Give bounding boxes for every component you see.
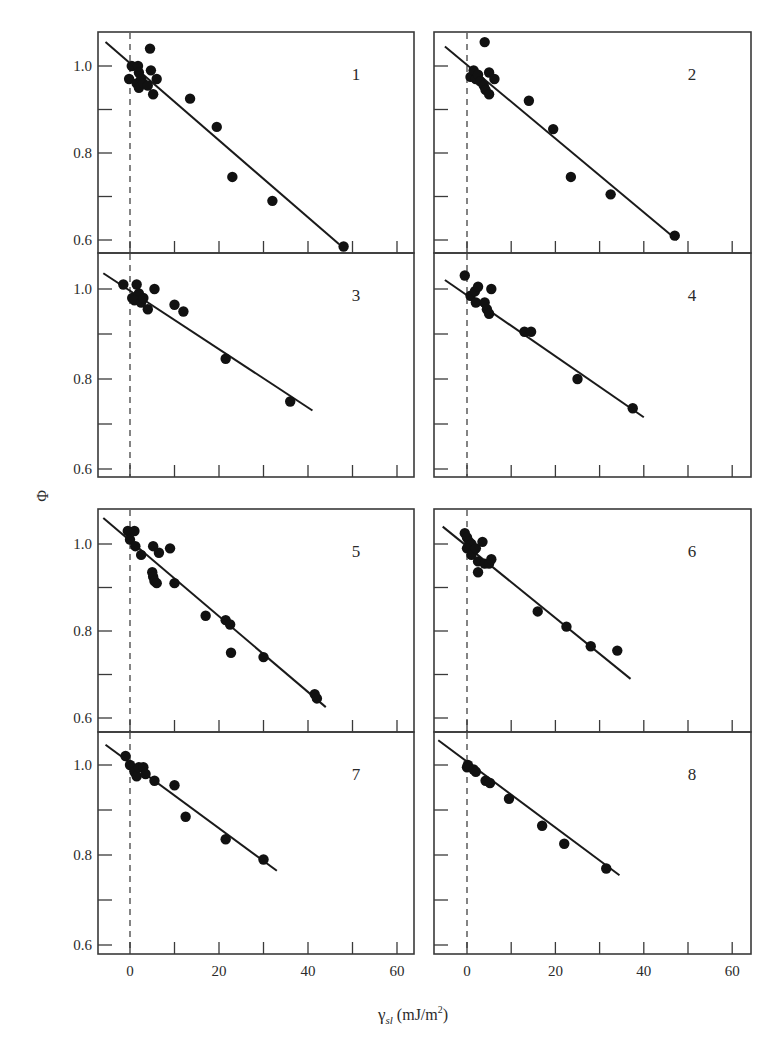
data-point bbox=[169, 578, 179, 588]
panel-5: 51.00.80.6 bbox=[73, 509, 414, 732]
y-tick-label: 0.8 bbox=[73, 847, 92, 863]
x-axis-title-subscript: sl bbox=[386, 1014, 393, 1026]
data-point bbox=[146, 65, 156, 75]
y-tick-label: 1.0 bbox=[73, 757, 92, 773]
data-point bbox=[258, 652, 268, 662]
x-tick-label: 20 bbox=[212, 963, 227, 979]
data-point bbox=[152, 74, 162, 84]
x-axis-title-unit: (mJ/m bbox=[393, 1006, 438, 1024]
data-point bbox=[460, 270, 470, 280]
panel-number-label: 1 bbox=[352, 65, 361, 84]
panel-number-label: 3 bbox=[352, 286, 361, 305]
y-tick-label: 0.6 bbox=[73, 937, 92, 953]
x-axis-title: γsl (mJ/m2) bbox=[377, 1004, 448, 1026]
y-axis-title: Φ bbox=[34, 490, 51, 502]
panel-frame bbox=[98, 253, 414, 477]
panel-6: 6 bbox=[434, 509, 751, 732]
panel-3: 31.00.80.6 bbox=[73, 253, 414, 477]
data-point bbox=[165, 543, 175, 553]
panel-number-label: 7 bbox=[352, 765, 361, 784]
panels-group: 11.00.80.6231.00.80.6451.00.80.6671.00.8… bbox=[73, 32, 751, 979]
data-point bbox=[258, 854, 268, 864]
data-point bbox=[169, 780, 179, 790]
x-tick-label: 0 bbox=[463, 963, 471, 979]
data-point bbox=[148, 89, 158, 99]
data-point bbox=[473, 282, 483, 292]
panel-8: 80204060 bbox=[434, 732, 751, 979]
panel-frame bbox=[98, 32, 414, 253]
data-point bbox=[212, 122, 222, 132]
data-point bbox=[169, 300, 179, 310]
data-point bbox=[220, 834, 230, 844]
data-point bbox=[130, 541, 140, 551]
data-point bbox=[312, 693, 322, 703]
y-tick-label: 1.0 bbox=[73, 536, 92, 552]
data-point bbox=[537, 821, 547, 831]
data-point bbox=[559, 839, 569, 849]
data-point bbox=[566, 172, 576, 182]
data-point bbox=[138, 293, 148, 303]
data-point bbox=[471, 297, 481, 307]
data-point bbox=[178, 306, 188, 316]
data-point bbox=[628, 403, 638, 413]
data-point bbox=[145, 43, 155, 53]
x-tick-label: 20 bbox=[548, 963, 563, 979]
y-tick-label: 1.0 bbox=[73, 281, 92, 297]
figure: 11.00.80.6231.00.80.6451.00.80.6671.00.8… bbox=[0, 0, 784, 1045]
y-tick-label: 0.8 bbox=[73, 623, 92, 639]
data-point bbox=[154, 548, 164, 558]
panel-frame bbox=[98, 509, 414, 732]
y-tick-label: 1.0 bbox=[73, 58, 92, 74]
panel-frame bbox=[434, 32, 751, 253]
data-point bbox=[149, 284, 159, 294]
panel-4: 4 bbox=[434, 253, 751, 477]
data-point bbox=[285, 396, 295, 406]
data-point bbox=[612, 645, 622, 655]
data-point bbox=[131, 279, 141, 289]
y-tick-label: 0.6 bbox=[73, 461, 92, 477]
data-point bbox=[120, 751, 130, 761]
data-point bbox=[479, 37, 489, 47]
x-tick-label: 40 bbox=[636, 963, 651, 979]
panel-1: 11.00.80.6 bbox=[73, 32, 414, 253]
data-point bbox=[477, 537, 487, 547]
data-point bbox=[524, 96, 534, 106]
panel-frame bbox=[434, 732, 751, 954]
data-point bbox=[484, 309, 494, 319]
panel-number-label: 5 bbox=[352, 542, 361, 561]
data-point bbox=[220, 354, 230, 364]
data-point bbox=[471, 767, 481, 777]
data-point bbox=[226, 648, 236, 658]
data-point bbox=[605, 189, 615, 199]
y-tick-label: 0.6 bbox=[73, 232, 92, 248]
data-point bbox=[572, 374, 582, 384]
x-axis-title-close: ) bbox=[443, 1006, 448, 1024]
y-tick-label: 0.8 bbox=[73, 371, 92, 387]
panel-7: 71.00.80.60204060 bbox=[73, 732, 414, 979]
y-tick-label: 0.6 bbox=[73, 710, 92, 726]
data-point bbox=[504, 794, 514, 804]
data-point bbox=[136, 550, 146, 560]
data-point bbox=[185, 93, 195, 103]
panel-number-label: 4 bbox=[688, 286, 697, 305]
data-point bbox=[486, 554, 496, 564]
data-point bbox=[225, 619, 235, 629]
panel-number-label: 2 bbox=[688, 65, 697, 84]
x-tick-label: 60 bbox=[390, 963, 405, 979]
data-point bbox=[526, 327, 536, 337]
data-point bbox=[143, 80, 153, 90]
x-tick-label: 60 bbox=[725, 963, 740, 979]
y-tick-label: 0.8 bbox=[73, 145, 92, 161]
data-point bbox=[486, 284, 496, 294]
data-point bbox=[200, 611, 210, 621]
data-point bbox=[180, 812, 190, 822]
x-tick-label: 40 bbox=[301, 963, 316, 979]
data-point bbox=[484, 89, 494, 99]
data-point bbox=[533, 606, 543, 616]
panel-number-label: 8 bbox=[688, 765, 697, 784]
data-point bbox=[227, 172, 237, 182]
data-point bbox=[129, 526, 139, 536]
data-point bbox=[561, 621, 571, 631]
data-point bbox=[586, 641, 596, 651]
panel-2: 2 bbox=[434, 32, 751, 253]
